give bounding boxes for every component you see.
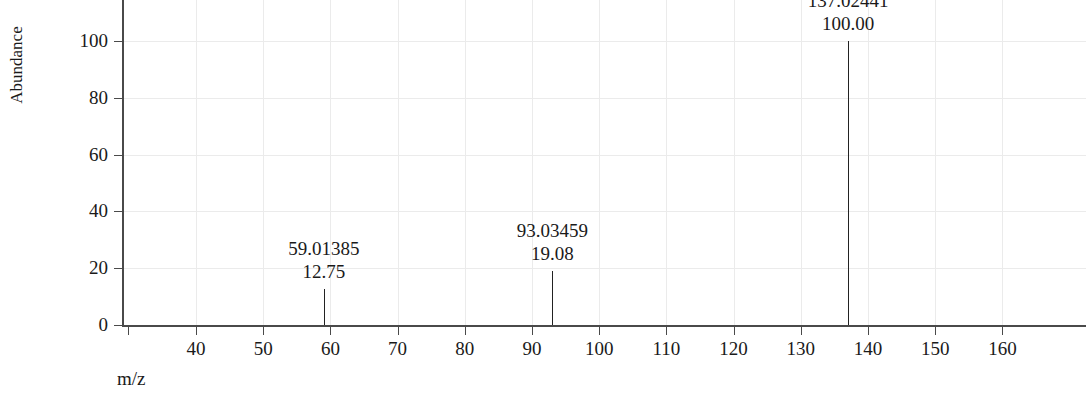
gridline-vertical	[532, 0, 533, 326]
x-axis-tick	[801, 327, 802, 335]
gridline-horizontal	[122, 41, 1086, 42]
x-axis-tick-label: 80	[435, 338, 495, 360]
y-axis-tick	[114, 41, 122, 42]
gridline-horizontal	[122, 211, 1086, 212]
x-axis-tick	[734, 327, 735, 335]
y-axis-tick-label: 20	[0, 258, 108, 277]
peak-stick	[552, 271, 553, 325]
y-axis-line	[122, 0, 124, 326]
gridline-vertical	[868, 0, 869, 326]
peak-annotation: 59.0138512.75	[288, 237, 359, 283]
peak-stick	[324, 289, 325, 325]
plot-area	[122, 0, 1086, 326]
x-axis-tick-label: 100	[569, 338, 629, 360]
x-axis-tick-label: 70	[368, 338, 428, 360]
y-axis-tick	[114, 98, 122, 99]
gridline-vertical	[801, 0, 802, 326]
gridline-vertical	[666, 0, 667, 326]
x-axis-tick	[263, 327, 264, 335]
gridline-vertical	[263, 0, 264, 326]
x-axis-tick-label: 150	[905, 338, 965, 360]
x-axis-tick-label: 90	[502, 338, 562, 360]
mass-spectrum-chart: 020406080100 405060708090100110120130140…	[0, 0, 1086, 397]
x-axis-line	[122, 325, 1086, 327]
x-axis-tick	[935, 327, 936, 335]
peak-mz-label: 93.03459	[517, 219, 588, 242]
x-axis-tick-label: 40	[166, 338, 226, 360]
x-axis-tick	[196, 327, 197, 335]
gridline-vertical	[1002, 0, 1003, 326]
y-axis-tick	[114, 325, 122, 326]
x-axis-tick-label: 140	[838, 338, 898, 360]
y-axis-tick	[114, 155, 122, 156]
gridline-horizontal	[122, 155, 1086, 156]
x-axis-tick-label: 120	[704, 338, 764, 360]
peak-intensity-label: 12.75	[288, 260, 359, 283]
x-axis-tick	[128, 327, 129, 335]
peak-annotation: 137.02441100.00	[808, 0, 889, 35]
peak-intensity-label: 100.00	[808, 12, 889, 35]
gridline-vertical	[734, 0, 735, 326]
x-axis-tick	[599, 327, 600, 335]
gridline-vertical	[599, 0, 600, 326]
peak-mz-label: 59.01385	[288, 237, 359, 260]
x-axis-tick	[666, 327, 667, 335]
y-axis-title: Abundance	[7, 15, 27, 115]
peak-intensity-label: 19.08	[517, 242, 588, 265]
x-axis-tick-label: 130	[771, 338, 831, 360]
gridline-vertical	[465, 0, 466, 326]
x-axis-tick	[532, 327, 533, 335]
x-axis-title: m/z	[117, 368, 146, 390]
gridline-horizontal	[122, 98, 1086, 99]
x-axis-tick-label: 160	[972, 338, 1032, 360]
gridline-vertical	[398, 0, 399, 326]
x-axis-tick	[868, 327, 869, 335]
gridline-vertical	[935, 0, 936, 326]
peak-mz-label: 137.02441	[808, 0, 889, 12]
y-axis-tick	[114, 211, 122, 212]
y-axis-tick-label: 0	[0, 315, 108, 334]
x-axis-tick	[1002, 327, 1003, 335]
gridline-horizontal	[122, 268, 1086, 269]
gridline-vertical	[196, 0, 197, 326]
x-axis-tick-label: 50	[233, 338, 293, 360]
x-axis-tick	[330, 327, 331, 335]
x-axis-tick-label: 60	[300, 338, 360, 360]
x-axis-tick	[398, 327, 399, 335]
y-axis-tick	[114, 268, 122, 269]
peak-stick	[848, 41, 849, 325]
peak-annotation: 93.0345919.08	[517, 219, 588, 265]
x-axis-tick-label: 110	[636, 338, 696, 360]
y-axis-tick-label: 40	[0, 201, 108, 220]
x-axis-tick	[465, 327, 466, 335]
y-axis-tick-label: 60	[0, 145, 108, 164]
